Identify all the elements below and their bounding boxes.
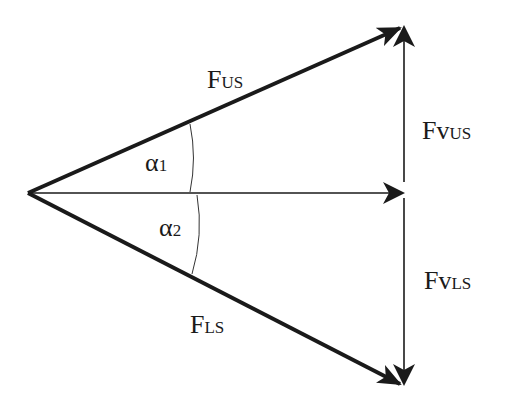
label-fv-ls: FvLS xyxy=(424,268,471,294)
label-fv-us: FvUS xyxy=(422,118,471,144)
label-f-us: FUS xyxy=(207,67,243,93)
vector-f-us xyxy=(28,28,400,193)
angle-arc-alpha-2 xyxy=(192,195,199,274)
label-alpha-1: α1 xyxy=(145,150,167,176)
label-alpha-2: α2 xyxy=(159,215,181,241)
angle-arc-alpha-1 xyxy=(190,124,193,192)
vector-f-ls xyxy=(28,193,400,384)
label-f-ls: FLS xyxy=(190,312,224,338)
force-diagram xyxy=(0,0,505,406)
